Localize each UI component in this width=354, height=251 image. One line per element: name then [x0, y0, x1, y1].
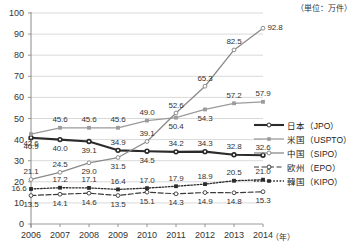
data-label-kipo: 18.9	[198, 171, 213, 180]
y-axis-tick-label: 100	[2, 8, 24, 18]
x-axis-tick-label: 2010	[132, 230, 162, 240]
data-point-kipo	[174, 184, 178, 188]
data-point-kipo	[116, 187, 120, 191]
data-label-uspto: 50.4	[169, 122, 184, 131]
data-point-epo	[116, 194, 120, 198]
data-point-uspto	[29, 132, 33, 136]
legend-label-jpo: 日本（JPO）	[287, 119, 340, 131]
data-label-sipo: 82.5	[227, 37, 242, 46]
data-point-sipo	[116, 156, 120, 160]
data-point-sipo	[232, 48, 236, 52]
data-point-sipo	[261, 26, 265, 30]
x-axis-tick-label: 2012	[190, 230, 220, 240]
legend-item-jpo[interactable]: 日本（JPO）	[254, 118, 352, 132]
data-point-kipo	[58, 186, 62, 190]
data-label-jpo: 39.1	[82, 145, 97, 154]
data-point-kipo	[232, 179, 236, 183]
data-label-kipo: 17.0	[140, 175, 155, 184]
data-label-kipo: 17.9	[169, 173, 184, 182]
data-label-kipo: 16.4	[111, 176, 126, 185]
data-label-sipo: 31.5	[111, 162, 126, 171]
data-label-sipo: 24.5	[53, 159, 68, 168]
data-point-uspto	[116, 126, 120, 130]
data-point-epo	[29, 194, 33, 198]
data-point-sipo	[58, 170, 62, 174]
legend-item-uspto[interactable]: 米国（USPTO）	[254, 132, 352, 146]
data-point-uspto	[87, 126, 91, 130]
chart-root: （単位：万件） 01020304050607080901002006200720…	[0, 0, 354, 251]
legend-item-epo[interactable]: 欧州（EPO）	[254, 160, 352, 174]
data-label-sipo: 65.3	[198, 73, 213, 82]
legend-item-kipo[interactable]: 韓国（KIPO）	[254, 174, 352, 188]
data-point-kipo	[145, 186, 149, 190]
data-label-epo: 14.6	[82, 197, 97, 206]
legend-label-uspto: 米国（USPTO）	[287, 133, 352, 145]
data-point-jpo	[87, 140, 91, 144]
data-label-uspto: 54.3	[198, 113, 213, 122]
data-point-kipo	[29, 187, 33, 191]
data-point-jpo	[174, 150, 178, 154]
data-point-epo	[203, 191, 207, 195]
legend-swatch-uspto	[254, 134, 284, 144]
data-label-jpo: 34.3	[198, 139, 213, 148]
x-axis-tick-label: 2011	[161, 230, 191, 240]
data-point-uspto	[174, 116, 178, 120]
data-point-kipo	[203, 182, 207, 186]
data-point-epo	[87, 191, 91, 195]
legend-item-sipo[interactable]: 中国（SIPO）	[254, 146, 352, 160]
data-point-kipo	[87, 186, 91, 190]
data-point-jpo	[58, 138, 62, 142]
data-point-jpo	[232, 153, 236, 157]
data-label-epo: 14.3	[169, 198, 184, 207]
data-point-uspto	[261, 100, 265, 104]
data-point-jpo	[116, 148, 120, 152]
data-label-sipo: 21.1	[24, 166, 39, 175]
data-label-kipo: 17.2	[53, 175, 68, 184]
data-label-uspto: 45.6	[111, 115, 126, 124]
x-axis-unit-label: （年）	[271, 231, 295, 242]
data-point-epo	[174, 192, 178, 196]
data-point-sipo	[145, 140, 149, 144]
y-axis-tick-label: 30	[2, 156, 24, 166]
legend-swatch-kipo	[254, 176, 284, 186]
data-point-sipo	[87, 161, 91, 165]
data-label-jpo: 32.8	[227, 142, 242, 151]
chart-legend: 日本（JPO）米国（USPTO）中国（SIPO）欧州（EPO）韓国（KIPO）	[254, 118, 352, 188]
data-point-epo	[145, 190, 149, 194]
data-label-uspto: 57.2	[227, 90, 242, 99]
data-point-epo	[58, 192, 62, 196]
y-axis-tick-label: 60	[2, 92, 24, 102]
data-label-uspto: 45.6	[53, 115, 68, 124]
data-point-uspto	[58, 126, 62, 130]
data-point-sipo	[203, 84, 207, 88]
data-label-jpo: 40.0	[53, 144, 68, 153]
data-point-epo	[261, 190, 265, 194]
data-label-uspto: 49.0	[140, 108, 155, 117]
data-label-epo: 14.9	[198, 197, 213, 206]
data-label-epo: 15.3	[256, 196, 271, 205]
x-axis-tick-label: 2008	[74, 230, 104, 240]
data-label-epo: 14.8	[227, 197, 242, 206]
data-label-uspto: 42.6	[24, 138, 39, 147]
legend-swatch-jpo	[254, 120, 284, 130]
y-axis-tick-label: 70	[2, 71, 24, 81]
x-axis-tick-label: 2009	[103, 230, 133, 240]
data-point-uspto	[203, 108, 207, 112]
data-point-jpo	[203, 150, 207, 154]
data-point-sipo	[174, 111, 178, 115]
legend-swatch-sipo	[254, 148, 284, 158]
data-label-epo: 13.5	[111, 200, 126, 209]
x-axis-tick-label: 2006	[16, 230, 46, 240]
data-point-uspto	[232, 101, 236, 105]
legend-label-kipo: 韓国（KIPO）	[287, 175, 343, 187]
data-label-jpo: 34.9	[111, 137, 126, 146]
legend-label-sipo: 中国（SIPO）	[287, 147, 343, 159]
data-label-uspto: 45.6	[82, 115, 97, 124]
data-label-kipo: 16.6	[12, 183, 27, 192]
data-label-sipo: 39.1	[140, 128, 155, 137]
data-label-uspto: 57.9	[256, 89, 271, 98]
data-label-kipo: 20.5	[227, 168, 242, 177]
data-point-sipo	[29, 178, 33, 182]
data-label-epo: 13.5	[24, 200, 39, 209]
data-point-epo	[232, 191, 236, 195]
